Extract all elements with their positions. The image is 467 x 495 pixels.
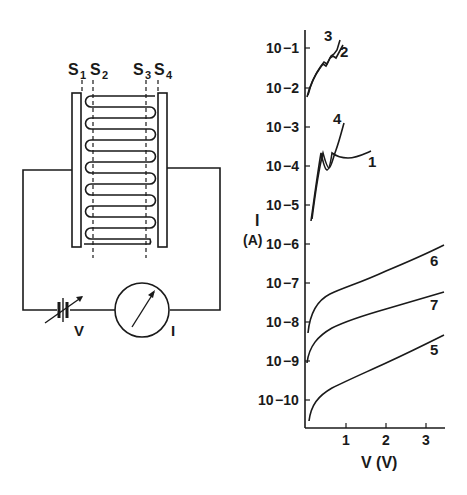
curve-label-4: 4 (333, 110, 342, 127)
svg-text:S: S (133, 61, 144, 78)
y-tick-label: 10−5 (266, 197, 299, 213)
svg-text:−9: −9 (283, 353, 299, 369)
curve-label-2: 2 (340, 43, 348, 60)
curve-label-3: 3 (324, 27, 332, 44)
svg-text:10: 10 (266, 158, 282, 174)
curve-7 (307, 292, 444, 363)
svg-text:10: 10 (266, 80, 282, 96)
y-tick-label: 10−4 (266, 158, 299, 174)
y-tick-label: 10−9 (266, 353, 299, 369)
surface-label-s1: S 1 (68, 61, 86, 81)
curve-1 (311, 151, 371, 221)
y-tick-label: 10−8 (266, 314, 299, 330)
curve-6 (308, 245, 444, 333)
x-tick-label: 2 (382, 432, 390, 448)
right-wire (167, 168, 220, 310)
curve-label-1: 1 (368, 153, 376, 170)
svg-text:2: 2 (102, 69, 108, 81)
y-axis-label-unit: (A) (243, 232, 262, 248)
curve-label-5: 5 (430, 341, 438, 358)
curve-3 (308, 40, 340, 95)
svg-text:10: 10 (266, 197, 282, 213)
svg-text:S: S (154, 61, 165, 78)
curve-5 (309, 335, 444, 421)
svg-text:4: 4 (166, 69, 173, 81)
ammeter-icon (115, 283, 169, 337)
svg-text:−10: −10 (275, 392, 299, 408)
svg-text:10: 10 (266, 353, 282, 369)
svg-text:10: 10 (266, 119, 282, 135)
svg-text:−1: −1 (283, 40, 299, 56)
left-wire (23, 170, 72, 310)
y-tick-label: 10−7 (266, 275, 299, 291)
svg-text:S: S (68, 61, 79, 78)
surface-label-s3: S 3 (133, 61, 151, 81)
x-tick-label: 3 (422, 432, 430, 448)
svg-text:10: 10 (266, 40, 282, 56)
svg-text:10: 10 (266, 275, 282, 291)
y-tick-labels: 10−1 10−2 10−3 10−4 10−5 10−6 10−7 10−8 … (258, 40, 299, 408)
voltage-label: V (74, 322, 84, 339)
current-label: I (171, 322, 175, 339)
serpentine-chain (84, 96, 156, 244)
left-electrode (72, 93, 81, 247)
x-axis-label: V (V) (361, 454, 397, 471)
svg-text:10: 10 (258, 392, 274, 408)
curve-2 (307, 45, 343, 97)
figure: S 1 S 2 S 3 S 4 (0, 0, 467, 495)
svg-text:−7: −7 (283, 275, 299, 291)
svg-text:S: S (90, 61, 101, 78)
svg-text:3: 3 (145, 69, 151, 81)
svg-text:10: 10 (266, 236, 282, 252)
svg-text:−5: −5 (283, 197, 299, 213)
y-tick-label: 10−1 (266, 40, 299, 56)
svg-text:−4: −4 (283, 158, 299, 174)
surface-label-s2: S 2 (90, 61, 108, 81)
surface-label-s4: S 4 (154, 61, 173, 81)
y-tick-label: 10−2 (266, 80, 299, 96)
svg-text:10: 10 (266, 314, 282, 330)
svg-text:−8: −8 (283, 314, 299, 330)
circuit-diagram: S 1 S 2 S 3 S 4 (23, 61, 220, 339)
y-tick-label: 10−3 (266, 119, 299, 135)
y-tick-label: 10−10 (258, 392, 299, 408)
y-axis-label-symbol: I (255, 212, 259, 229)
curve-label-7: 7 (430, 296, 438, 313)
svg-text:−3: −3 (283, 119, 299, 135)
y-tick-label: 10−6 (266, 236, 299, 252)
x-tick-label: 1 (342, 432, 350, 448)
iv-chart: 10−1 10−2 10−3 10−4 10−5 10−6 10−7 10−8 … (243, 27, 445, 471)
curve-label-6: 6 (430, 252, 438, 269)
svg-text:1: 1 (80, 69, 86, 81)
svg-text:−6: −6 (283, 236, 299, 252)
svg-text:−2: −2 (283, 80, 299, 96)
curve-4 (312, 123, 344, 219)
right-electrode (158, 93, 167, 247)
